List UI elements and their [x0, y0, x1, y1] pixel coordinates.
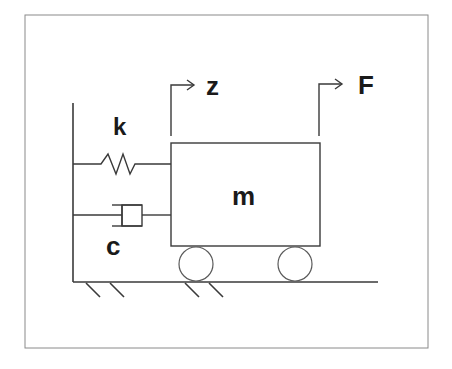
label-k: k — [113, 113, 127, 140]
label-m: m — [232, 181, 255, 211]
spring — [73, 154, 171, 174]
wheel-right — [278, 247, 312, 281]
displacement-arrow — [171, 80, 194, 136]
label-z: z — [206, 71, 219, 101]
wheel-left — [179, 247, 213, 281]
label-c: c — [106, 231, 120, 261]
damper — [73, 205, 171, 226]
force-arrow — [319, 79, 342, 136]
ground — [73, 282, 378, 297]
label-F: F — [358, 70, 374, 100]
mass-spring-damper-diagram: k z F m c — [0, 0, 452, 369]
